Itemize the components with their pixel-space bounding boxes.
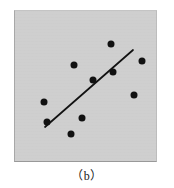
scatter-plot-panel: [14, 10, 157, 162]
figure-page: （b）: [0, 0, 174, 188]
figure-caption: （b）: [0, 166, 174, 184]
